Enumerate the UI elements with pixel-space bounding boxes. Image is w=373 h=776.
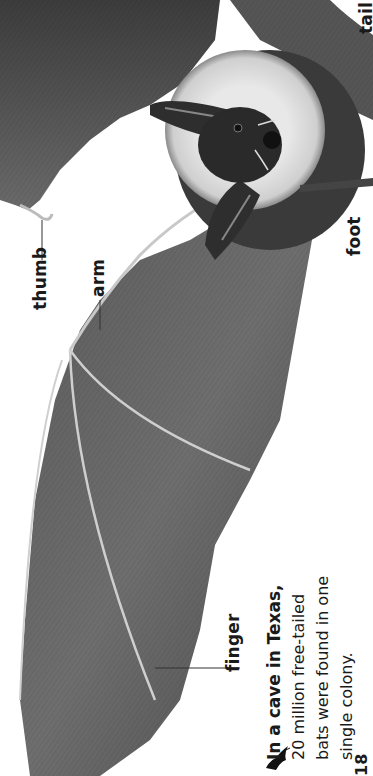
label-thumb: thumb [30,247,50,310]
fact-line-2: bats were found in one [311,560,335,760]
thumb-claw [20,205,52,219]
bat-nose [263,131,281,149]
fact-line-1: 20 million free-tailed [287,560,311,760]
label-finger: finger [223,613,243,672]
bat-eye [234,124,242,132]
fact-box: In a cave in Texas, 20 million free-tail… [262,560,359,760]
label-foot: foot [344,216,364,256]
page-number: 18 [352,754,371,776]
label-arm: arm [88,259,108,297]
fact-lead: In a cave in Texas, [264,584,284,760]
fact-line-3: single colony. [335,560,359,760]
label-tail: tail [356,2,373,34]
